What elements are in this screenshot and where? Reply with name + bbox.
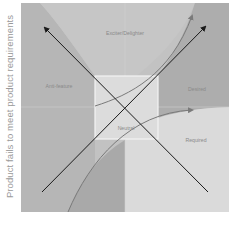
label-exciter: Exciter/Delighter <box>106 30 144 36</box>
label-anti-feature: Anti-feature <box>46 83 73 89</box>
label-neutral: Neutral <box>118 125 135 131</box>
label-desired: Desired <box>188 86 206 92</box>
kano-diagram: Exciter/Delighter Anti-feature Desired R… <box>0 0 234 225</box>
label-required: Required <box>185 137 206 143</box>
